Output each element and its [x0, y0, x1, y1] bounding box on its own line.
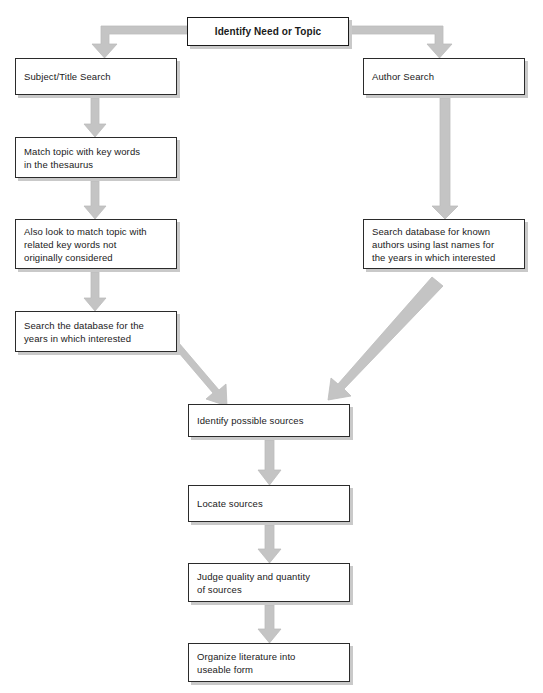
node-label: Identify possible sources — [189, 414, 312, 427]
arrow-topic-to-subject-title — [92, 26, 187, 58]
arrow-also-look-to-search-years — [84, 272, 106, 311]
arrow-author-to-search-known — [432, 98, 458, 219]
node-label: Locate sources — [189, 497, 271, 510]
node-search-database-known-authors[interactable]: Search database for known authors using … — [363, 219, 525, 269]
node-organize-literature[interactable]: Organize literature into useable form — [188, 643, 350, 682]
arrow-locate-to-judge — [258, 525, 281, 563]
node-author-search[interactable]: Author Search — [363, 58, 525, 95]
arrow-search-years-to-identify-sources — [168, 343, 227, 406]
node-label: Subject/Title Search — [16, 70, 119, 83]
node-locate-sources[interactable]: Locate sources — [188, 485, 350, 522]
node-identify-possible-sources[interactable]: Identify possible sources — [188, 404, 350, 437]
arrow-match-to-also-look — [84, 181, 106, 219]
node-label: Search the database for the years in whi… — [16, 319, 152, 345]
arrow-topic-to-author — [349, 26, 452, 58]
node-label: Judge quality and quantity of sources — [189, 570, 318, 596]
node-judge-quality-quantity[interactable]: Judge quality and quantity of sources — [188, 563, 350, 602]
node-also-look-related-key-words[interactable]: Also look to match topic with related ke… — [15, 219, 177, 269]
node-identify-need-or-topic[interactable]: Identify Need or Topic — [187, 17, 349, 46]
arrow-identify-to-locate — [258, 440, 281, 485]
node-match-topic-key-words[interactable]: Match topic with key words in the thesau… — [15, 137, 177, 178]
arrow-search-known-to-identify-sources — [328, 277, 443, 400]
flowchart-canvas: Identify Need or Topic Subject/Title Sea… — [0, 0, 543, 693]
node-label: Organize literature into useable form — [189, 650, 304, 676]
node-label: Identify Need or Topic — [207, 25, 329, 38]
arrow-judge-to-organize — [258, 605, 281, 643]
node-label: Also look to match topic with related ke… — [16, 225, 155, 264]
arrow-subject-to-match — [84, 98, 106, 137]
node-label: Search database for known authors using … — [364, 225, 503, 264]
node-label: Match topic with key words in the thesau… — [16, 145, 148, 171]
node-subject-title-search[interactable]: Subject/Title Search — [15, 58, 177, 95]
node-label: Author Search — [364, 70, 442, 83]
node-search-database-years[interactable]: Search the database for the years in whi… — [15, 311, 177, 352]
